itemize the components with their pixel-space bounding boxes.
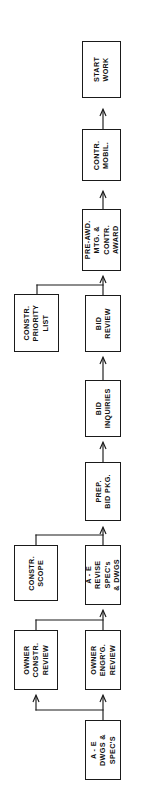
node-contr-mobil-label: CONTR. MOBIL. — [92, 140, 111, 170]
node-owner-constr-review-label: OWNER CONSTR. REVIEW — [22, 643, 50, 678]
node-pre-awd-mtg-contr-award[interactable]: PRE-AWD. MTG. & CONTR. AWARD — [82, 209, 121, 271]
node-prep-bid-pkg-label: PREP. BID PKG. — [94, 474, 113, 509]
node-owner-engrg-review-label: OWNER ENGR'G. REVIEW — [89, 644, 117, 677]
node-constr-scope[interactable]: CONSTR. SCOPE — [14, 545, 58, 601]
node-ae-revise-specs-dwgs-label: A - E REVISE SPEC's & DWGS — [85, 559, 121, 591]
node-constr-scope-label: CONSTR. SCOPE — [27, 556, 46, 591]
node-constr-priority-list[interactable]: CONSTR. PRIORITY LIST — [14, 294, 59, 352]
node-bid-inquiries-label: BID INQUIRIES — [94, 389, 113, 429]
node-owner-engrg-review[interactable]: OWNER ENGR'G. REVIEW — [85, 630, 121, 690]
node-constr-priority-list-label: CONSTR. PRIORITY LIST — [22, 305, 50, 342]
node-ae-dwgs-specs-label: A - E DWGS & SPEC'S — [89, 734, 117, 766]
node-ae-dwgs-specs[interactable]: A - E DWGS & SPEC'S — [85, 720, 121, 780]
node-bid-inquiries[interactable]: BID INQUIRIES — [85, 380, 121, 437]
node-owner-constr-review[interactable]: OWNER CONSTR. REVIEW — [14, 630, 58, 690]
node-contr-mobil[interactable]: CONTR. MOBIL. — [82, 129, 121, 181]
node-bid-review-label: BID REVIEW — [94, 308, 113, 338]
node-bid-review[interactable]: BID REVIEW — [85, 295, 121, 352]
node-start-work[interactable]: START WORK — [82, 41, 121, 98]
node-pre-awd-mtg-contr-award-label: PRE-AWD. MTG. & CONTR. AWARD — [83, 221, 121, 260]
node-ae-revise-specs-dwgs[interactable]: A - E REVISE SPEC's & DWGS — [85, 545, 121, 605]
flowchart-canvas: START WORK CONTR. MOBIL. PRE-AWD. MTG. &… — [0, 0, 145, 804]
node-prep-bid-pkg[interactable]: PREP. BID PKG. — [85, 462, 121, 521]
node-start-work-label: START WORK — [92, 57, 111, 82]
